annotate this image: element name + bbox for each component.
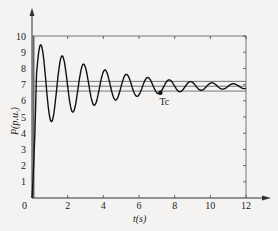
x-tick-label: 12 <box>241 200 251 211</box>
x-tick-label: 6 <box>137 200 142 211</box>
y-tick-label: 5 <box>21 112 26 123</box>
x-tick-label: 8 <box>172 200 177 211</box>
annotation-label: Tc <box>159 96 169 107</box>
y-tick-label: 1 <box>21 176 26 187</box>
y-tick-label: 10 <box>16 31 26 42</box>
y-tick-label: 2 <box>21 160 26 171</box>
x-tick-label: 0 <box>22 200 27 211</box>
y-tick-label: 7 <box>21 79 26 90</box>
y-tick-label: 4 <box>21 128 26 139</box>
x-axis-label: t(s) <box>133 213 147 225</box>
x-tick-label: 2 <box>65 200 70 211</box>
chart: 02468101212345678910 Tc t(s) P(p.u.) <box>0 0 278 231</box>
y-tick-label: 3 <box>21 144 26 155</box>
x-tick-label: 4 <box>101 200 106 211</box>
y-tick-label: 9 <box>21 47 26 58</box>
annotation-point <box>158 91 162 95</box>
series <box>32 45 246 198</box>
annotations: Tc <box>158 91 170 107</box>
y-axis-arrow <box>30 8 35 16</box>
y-tick-label: 6 <box>21 95 26 106</box>
x-axis-arrow <box>262 196 271 201</box>
axes <box>30 8 272 201</box>
series-line <box>32 45 246 198</box>
x-tick-label: 10 <box>205 200 215 211</box>
y-tick-label: 8 <box>21 63 26 74</box>
y-axis-label: P(p.u.) <box>9 107 21 136</box>
